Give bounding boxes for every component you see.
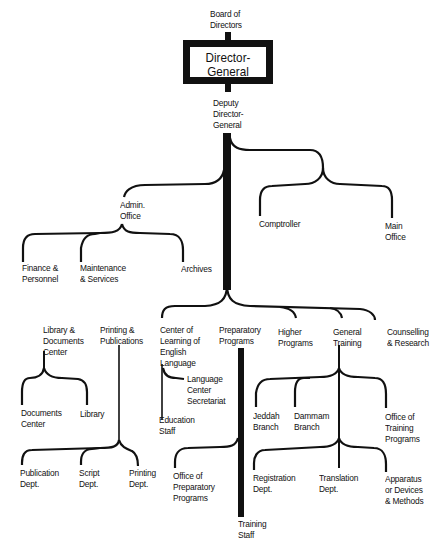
node-comptroller: Comptroller (259, 218, 300, 229)
node-library-documents-center: Library & Documents Center (43, 324, 84, 357)
node-office-of-training-programs: Office of Training Programs (385, 411, 420, 444)
director-general-label: Director- General (194, 51, 262, 79)
node-main-office: Main Office (385, 220, 406, 242)
node-education-staff: Education Staff (159, 414, 195, 436)
node-script-dept: Script Dept. (79, 467, 99, 489)
node-center-of-learning-english: Center of Learning of English Language (160, 324, 200, 368)
node-apparatus-devices-methods: Apparatus or Devices & Methods (385, 473, 423, 506)
node-office-of-preparatory-programs: Office of Preparatory Programs (173, 470, 215, 503)
node-printing-dept: Printing Dept. (129, 467, 156, 489)
node-maintenance-services: Maintenance & Services (80, 262, 126, 284)
node-printing-publications: Printing & Publications (100, 324, 143, 346)
node-preparatory-programs: Preparatory Programs (219, 324, 261, 346)
node-translation-dept: Translation Dept. (319, 472, 358, 494)
node-library: Library (80, 408, 104, 419)
node-deputy-director-general: Deputy Director- General (213, 97, 243, 130)
node-jeddah-branch: Jeddah Branch (253, 410, 279, 432)
node-language-center-secretariat: Language Center Secretariat (187, 373, 226, 406)
node-archives: Archives (181, 263, 212, 274)
node-board-of-directors: Board of Directors (210, 8, 242, 30)
node-finance-personnel: Finance & Personnel (22, 262, 58, 284)
node-general-training: General Training (333, 326, 362, 348)
node-director-general: Director- General (183, 40, 273, 84)
node-documents-center: Documents Center (21, 407, 62, 429)
node-training-staff: Training Staff (238, 518, 266, 540)
node-publication-dept: Publication Dept. (20, 467, 59, 489)
node-registration-dept: Registration Dept. (253, 472, 296, 494)
node-admin-office: Admin. Office (120, 199, 145, 221)
org-chart: Board of Directors Director- General Dep… (0, 0, 447, 556)
node-higher-programs: Higher Programs (278, 326, 313, 348)
node-dammam-branch: Dammam Branch (294, 410, 329, 432)
node-counselling-research: Counselling & Research (387, 326, 429, 348)
